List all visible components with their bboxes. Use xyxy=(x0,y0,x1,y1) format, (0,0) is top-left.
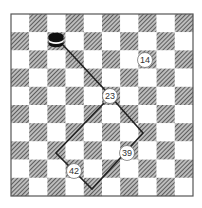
light-square[interactable] xyxy=(175,141,193,159)
dark-square[interactable] xyxy=(47,178,65,196)
dark-square[interactable] xyxy=(138,123,156,141)
light-square[interactable] xyxy=(157,50,175,68)
light-square[interactable] xyxy=(84,14,102,32)
board-svg: 14233942 xyxy=(0,0,202,208)
dark-square[interactable] xyxy=(11,105,29,123)
dark-square[interactable] xyxy=(175,123,193,141)
light-square[interactable] xyxy=(47,123,65,141)
dark-square[interactable] xyxy=(120,178,138,196)
dark-square[interactable] xyxy=(47,105,65,123)
dark-square[interactable] xyxy=(175,50,193,68)
svg-text:39: 39 xyxy=(122,148,132,158)
dark-square[interactable] xyxy=(138,14,156,32)
dark-square[interactable] xyxy=(138,160,156,178)
light-square[interactable] xyxy=(11,14,29,32)
dark-square[interactable] xyxy=(47,69,65,87)
light-square[interactable] xyxy=(120,14,138,32)
dark-square[interactable] xyxy=(157,69,175,87)
svg-text:42: 42 xyxy=(69,166,79,176)
light-square[interactable] xyxy=(47,160,65,178)
light-square[interactable] xyxy=(175,178,193,196)
light-square[interactable] xyxy=(47,50,65,68)
dark-square[interactable] xyxy=(175,14,193,32)
light-square[interactable] xyxy=(11,123,29,141)
dark-square[interactable] xyxy=(138,87,156,105)
dark-square[interactable] xyxy=(120,69,138,87)
light-square[interactable] xyxy=(120,87,138,105)
light-square[interactable] xyxy=(29,178,47,196)
light-square[interactable] xyxy=(157,123,175,141)
dark-square[interactable] xyxy=(29,14,47,32)
light-square[interactable] xyxy=(84,160,102,178)
light-square[interactable] xyxy=(11,87,29,105)
light-square[interactable] xyxy=(66,178,84,196)
light-square[interactable] xyxy=(102,105,120,123)
move-label-23: 23 xyxy=(103,89,118,104)
dark-square[interactable] xyxy=(11,141,29,159)
light-square[interactable] xyxy=(102,141,120,159)
dark-square[interactable] xyxy=(157,32,175,50)
light-square[interactable] xyxy=(29,105,47,123)
dark-square[interactable] xyxy=(102,123,120,141)
dark-square[interactable] xyxy=(120,105,138,123)
dark-square[interactable] xyxy=(29,160,47,178)
light-square[interactable] xyxy=(66,32,84,50)
light-square[interactable] xyxy=(138,105,156,123)
checker-piece-icon[interactable] xyxy=(49,33,64,47)
dark-square[interactable] xyxy=(84,32,102,50)
move-label-42: 42 xyxy=(67,164,82,179)
light-square[interactable] xyxy=(138,141,156,159)
light-square[interactable] xyxy=(66,141,84,159)
dark-square[interactable] xyxy=(66,87,84,105)
dark-square[interactable] xyxy=(102,14,120,32)
move-label-39: 39 xyxy=(120,146,135,161)
light-square[interactable] xyxy=(102,69,120,87)
dark-square[interactable] xyxy=(66,50,84,68)
light-square[interactable] xyxy=(138,32,156,50)
light-square[interactable] xyxy=(47,14,65,32)
light-square[interactable] xyxy=(66,105,84,123)
light-square[interactable] xyxy=(120,50,138,68)
dark-square[interactable] xyxy=(175,87,193,105)
light-square[interactable] xyxy=(11,160,29,178)
light-square[interactable] xyxy=(84,87,102,105)
light-square[interactable] xyxy=(47,87,65,105)
dark-square[interactable] xyxy=(157,105,175,123)
light-square[interactable] xyxy=(29,32,47,50)
light-square[interactable] xyxy=(138,178,156,196)
dark-square[interactable] xyxy=(84,141,102,159)
light-square[interactable] xyxy=(175,32,193,50)
light-square[interactable] xyxy=(175,69,193,87)
dark-square[interactable] xyxy=(47,141,65,159)
dark-square[interactable] xyxy=(11,178,29,196)
dark-square[interactable] xyxy=(120,32,138,50)
light-square[interactable] xyxy=(157,160,175,178)
dark-square[interactable] xyxy=(102,50,120,68)
dark-square[interactable] xyxy=(11,69,29,87)
dark-square[interactable] xyxy=(157,141,175,159)
light-square[interactable] xyxy=(157,87,175,105)
dark-square[interactable] xyxy=(11,32,29,50)
light-square[interactable] xyxy=(157,14,175,32)
dark-square[interactable] xyxy=(66,14,84,32)
svg-text:14: 14 xyxy=(140,55,150,65)
dark-square[interactable] xyxy=(29,50,47,68)
svg-text:23: 23 xyxy=(105,91,115,101)
light-square[interactable] xyxy=(29,141,47,159)
light-square[interactable] xyxy=(102,32,120,50)
light-square[interactable] xyxy=(84,123,102,141)
dark-square[interactable] xyxy=(175,160,193,178)
light-square[interactable] xyxy=(102,178,120,196)
light-square[interactable] xyxy=(84,50,102,68)
dark-square[interactable] xyxy=(157,178,175,196)
light-square[interactable] xyxy=(120,160,138,178)
move-label-14: 14 xyxy=(138,53,153,68)
light-square[interactable] xyxy=(11,50,29,68)
light-square[interactable] xyxy=(138,69,156,87)
light-square[interactable] xyxy=(175,105,193,123)
light-square[interactable] xyxy=(29,69,47,87)
light-square[interactable] xyxy=(66,69,84,87)
dark-square[interactable] xyxy=(29,123,47,141)
dark-square[interactable] xyxy=(29,87,47,105)
checkers-board-diagram: 14233942 xyxy=(0,0,202,208)
